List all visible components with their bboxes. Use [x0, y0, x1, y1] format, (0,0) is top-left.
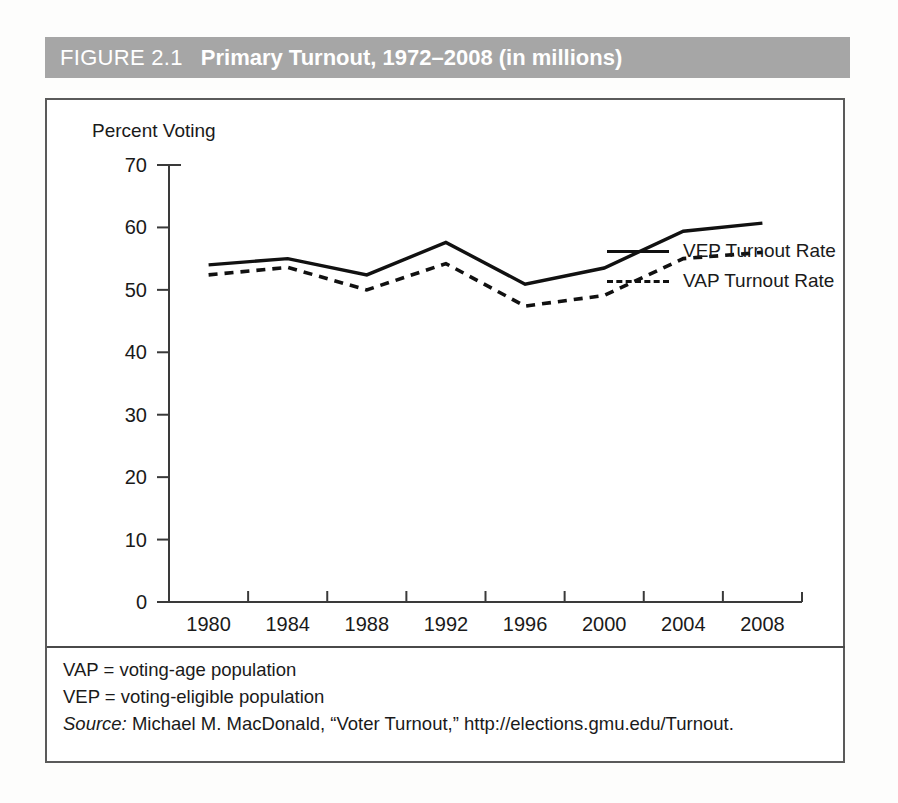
x-tick-label: 2008: [740, 613, 785, 635]
dashed-line-icon: [607, 280, 669, 283]
y-tick-label: 40: [125, 341, 147, 363]
legend-item-label: VAP Turnout Rate: [683, 270, 834, 292]
plot-area: Percent Voting 010203040506070 198019841…: [47, 100, 845, 640]
footnote-vap: VAP = voting-age population: [63, 656, 833, 683]
figure-number-label: FIGURE 2.1: [60, 45, 183, 71]
source-label: Source:: [63, 713, 127, 734]
x-tick-label: 1992: [424, 613, 469, 635]
chart-box: Percent Voting 010203040506070 198019841…: [45, 98, 845, 763]
figure-container: FIGURE 2.1 Primary Turnout, 1972–2008 (i…: [0, 0, 898, 803]
x-tick-label: 2000: [582, 613, 627, 635]
solid-line-icon: [607, 250, 669, 253]
footnote-block: VAP = voting-age population VEP = voting…: [63, 656, 833, 737]
axis-lines: [169, 165, 802, 602]
y-tick-label: 60: [125, 216, 147, 238]
x-axis-ticks: 19801984198819921996200020042008: [186, 591, 784, 635]
legend-item-label: VEP Turnout Rate: [683, 240, 836, 262]
line-chart-svg: 010203040506070 198019841988199219962000…: [47, 100, 845, 640]
legend-item-vap: VAP Turnout Rate: [607, 266, 836, 296]
source-note: Source: Michael M. MacDonald, “Voter Tur…: [63, 710, 833, 737]
y-tick-label: 30: [125, 404, 147, 426]
y-axis-ticks: 010203040506070: [125, 154, 169, 613]
figure-header-bar: FIGURE 2.1 Primary Turnout, 1972–2008 (i…: [45, 37, 850, 78]
footnote-vep: VEP = voting-eligible population: [63, 683, 833, 710]
y-tick-label: 50: [125, 279, 147, 301]
x-tick-label: 1980: [186, 613, 231, 635]
figure-title: Primary Turnout, 1972–2008 (in millions): [201, 45, 622, 71]
x-tick-label: 1984: [265, 613, 310, 635]
x-tick-label: 1988: [345, 613, 390, 635]
footnote-divider: [47, 646, 845, 648]
y-tick-label: 10: [125, 529, 147, 551]
x-tick-label: 1996: [503, 613, 548, 635]
y-tick-label: 20: [125, 466, 147, 488]
x-tick-label: 2004: [661, 613, 706, 635]
source-text: Michael M. MacDonald, “Voter Turnout,” h…: [127, 713, 734, 734]
legend-item-vep: VEP Turnout Rate: [607, 236, 836, 266]
y-tick-label: 70: [125, 154, 147, 176]
y-tick-label: 0: [136, 591, 147, 613]
chart-legend: VEP Turnout Rate VAP Turnout Rate: [607, 236, 836, 296]
